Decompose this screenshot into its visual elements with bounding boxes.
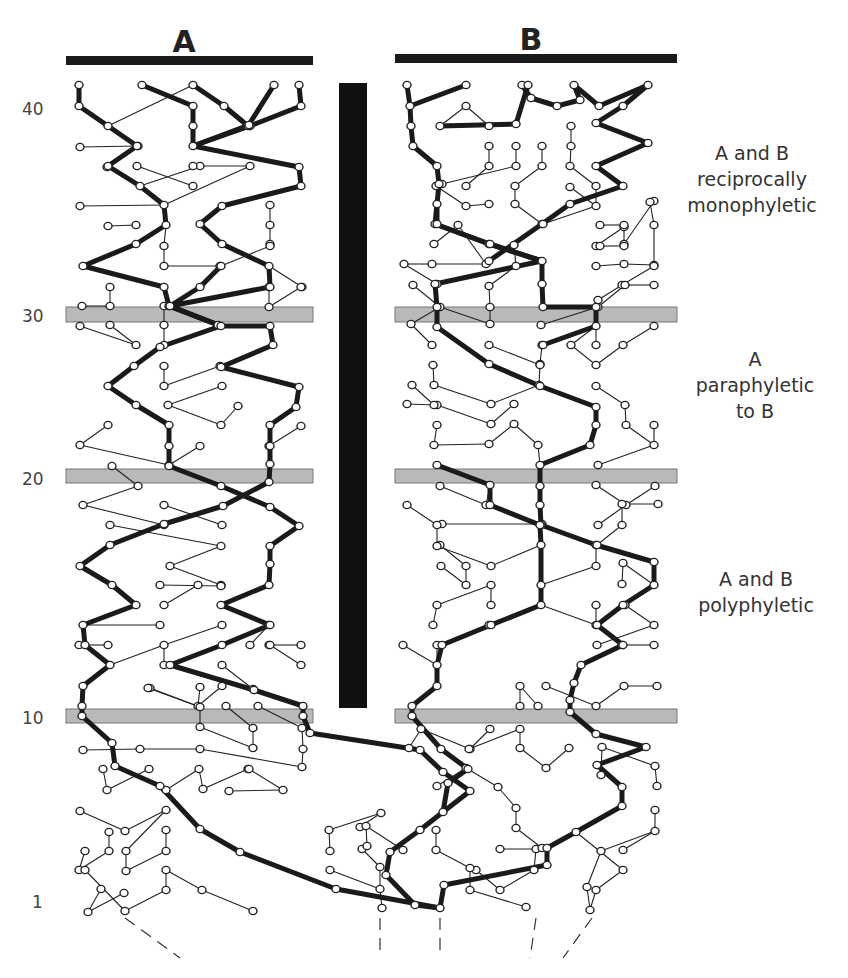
gene-copy-node [306, 729, 314, 736]
descent-link [596, 870, 623, 890]
gene-copy-node [266, 322, 274, 329]
gene-copy-node [511, 182, 519, 189]
gene-copy-node [650, 621, 658, 628]
gene-copy-node [620, 682, 628, 689]
gene-copy-node [217, 363, 225, 370]
gene-copy-node [592, 182, 600, 189]
descent-link [458, 225, 486, 264]
gene-copy-node [462, 581, 470, 588]
gene-copy-node [619, 102, 627, 109]
gene-copy-node [486, 303, 494, 310]
gene-copy-node [462, 562, 470, 569]
gene-copy-node [433, 461, 441, 468]
gene-copy-node [136, 182, 144, 189]
gene-copy-node [292, 403, 300, 410]
gene-copy-node [510, 420, 518, 427]
gene-copy-node [566, 162, 574, 169]
descent-link [442, 166, 516, 184]
gene-copy-node [454, 221, 462, 228]
gene-copy-node [266, 283, 274, 290]
gene-copy-node [542, 764, 550, 771]
gene-copy-node [133, 142, 141, 149]
gene-copy-node [138, 81, 146, 88]
gene-copy-node [266, 621, 274, 628]
phase-label-line: A [749, 348, 762, 370]
generation-label: 40 [22, 99, 44, 119]
gene-copy-node [97, 885, 105, 892]
band-gen-10 [66, 709, 313, 723]
descent-link [626, 486, 655, 505]
gene-copy-node [646, 198, 654, 205]
gene-copy-node [196, 442, 204, 449]
gene-copy-nodes [75, 81, 662, 915]
gene-copy-node [218, 521, 226, 528]
gene-copy-node [430, 441, 438, 448]
descent-link [164, 166, 250, 205]
gene-copy-node [298, 763, 306, 770]
gene-copy-node [265, 303, 273, 310]
gene-copy-node [297, 182, 305, 189]
gene-copy-node [487, 420, 495, 427]
gene-copy-node [75, 81, 83, 88]
gene-copy-node [250, 686, 258, 693]
gene-copy-node [485, 341, 493, 348]
gene-copy-node [76, 322, 84, 329]
descent-link [571, 345, 596, 365]
gene-copy-node [567, 341, 575, 348]
gene-copy-node [297, 641, 305, 648]
gene-copy-node [299, 702, 307, 709]
gene-copy-node [417, 725, 425, 732]
gene-copy-node [160, 382, 168, 389]
gene-copy-node [270, 81, 278, 88]
gene-copy-node [619, 866, 627, 873]
gene-copy-node [121, 827, 129, 834]
gene-copy-node [76, 441, 84, 448]
gene-copy-node [539, 220, 547, 227]
gene-copy-node [189, 102, 197, 109]
gene-copy-node [76, 202, 84, 209]
gene-copy-node [376, 863, 384, 870]
gene-copy-node [156, 343, 164, 350]
descent-link [541, 605, 596, 625]
gene-copy-node [485, 282, 493, 289]
gene-copy-node [596, 221, 604, 228]
gene-copy-node [650, 641, 658, 648]
descent-link [436, 850, 470, 868]
gene-copy-node [433, 601, 441, 608]
descent-link [80, 425, 108, 445]
gene-copy-node [162, 866, 170, 873]
gene-copy-node [104, 222, 112, 229]
gene-copy-node [594, 296, 602, 303]
descent-link [441, 566, 466, 585]
gene-copy-node [120, 889, 128, 896]
descent-link [403, 645, 437, 665]
gene-copy-node [218, 382, 226, 389]
gene-copy-node [266, 242, 274, 249]
gene-copy-node [619, 846, 627, 853]
gene-copy-node [295, 383, 303, 390]
descent-link [598, 445, 654, 465]
descent-link [623, 563, 654, 585]
gene-copy-node [99, 765, 107, 772]
gene-copy-node [534, 702, 542, 709]
gene-copy-node [536, 482, 544, 489]
gene-copy-node [76, 562, 84, 569]
gene-copy-node [144, 684, 152, 691]
gene-copy-node [325, 826, 333, 833]
gene-copy-node [225, 787, 233, 794]
gene-copy-node [618, 521, 626, 528]
descent-link [249, 769, 283, 790]
gene-copy-node [132, 221, 140, 228]
gene-copy-node [437, 745, 445, 752]
gene-copy-node [566, 696, 574, 703]
gene-copy-node [266, 560, 274, 567]
gene-copy-node [620, 221, 628, 228]
gene-copy-node [130, 362, 138, 369]
gene-copy-node [162, 847, 170, 854]
gene-copy-node [650, 281, 658, 288]
gene-copy-node [408, 381, 416, 388]
gene-copy-node [530, 866, 538, 873]
gene-copy-node [160, 601, 168, 608]
gene-copy-node [436, 482, 444, 489]
gene-copy-node [196, 745, 204, 752]
